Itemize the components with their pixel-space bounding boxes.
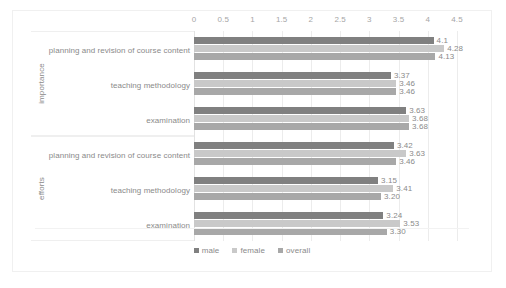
bar-row: 3.41 [194,185,457,192]
legend-item-female[interactable]: female [232,246,265,255]
bar-row: 3.37 [194,72,457,79]
category-section-efforts: effortsplanning and revision of course c… [31,136,194,241]
bar-value-label: 4.13 [435,52,454,61]
bar-group: 3.153.413.20 [194,177,457,201]
bar-row: 3.15 [194,177,457,184]
bar-male[interactable] [194,177,378,184]
bar-overall[interactable] [194,88,396,95]
bar-overall[interactable] [194,53,435,60]
axis-tick-label: 1.5 [276,15,287,24]
bar-group: 3.423.633.46 [194,142,457,166]
category-label: teaching methodology [111,80,190,89]
bar-overall[interactable] [194,193,381,200]
bars-layer: 4.14.284.133.373.463.463.633.683.683.423… [194,31,457,241]
bar-female[interactable] [194,150,406,157]
value-axis: 00.511.522.533.544.5 [194,15,490,29]
axis-tick-label: 1 [250,15,255,24]
bar-row: 3.68 [194,115,457,122]
section-title-label: importance [37,63,46,104]
section-title-efforts: efforts [33,137,49,240]
section-title-label: efforts [37,177,46,200]
gridline [457,31,458,241]
bar-row: 3.46 [194,158,457,165]
bar-overall[interactable] [194,123,409,130]
bar-row: 3.42 [194,142,457,149]
bar-row: 4.28 [194,45,457,52]
bar-row: 3.53 [194,220,457,227]
bar-female[interactable] [194,80,396,87]
bar-male[interactable] [194,72,391,79]
bar-value-label: 3.46 [396,157,415,166]
legend-swatch-icon [194,248,199,253]
bar-female[interactable] [194,45,444,52]
category-label: planning and revision of course content [49,150,190,159]
bar-male[interactable] [194,37,434,44]
chart-legend: malefemaleoverall [13,246,491,255]
bar-row: 3.20 [194,193,457,200]
bar-group: 4.14.284.13 [194,37,457,61]
bar-row: 3.63 [194,107,457,114]
bar-female[interactable] [194,115,409,122]
bar-group: 3.243.533.30 [194,212,457,236]
bar-row: 4.1 [194,37,457,44]
category-label: examination [146,115,190,124]
axis-tick-label: 0.5 [218,15,229,24]
legend-item-overall[interactable]: overall [278,246,310,255]
legend-label: overall [286,246,310,255]
section-title-importance: importance [33,32,49,135]
bar-female[interactable] [194,185,393,192]
category-label: planning and revision of course content [49,45,190,54]
bar-male[interactable] [194,142,394,149]
bar-value-label: 3.46 [396,87,415,96]
axis-tick-label: 2.5 [334,15,345,24]
legend-label: female [240,246,265,255]
axis-tick-label: 3 [367,15,372,24]
plot-area: 4.14.284.133.373.463.463.633.683.683.423… [194,31,457,241]
legend-swatch-icon [232,248,237,253]
axis-tick-label: 0 [192,15,197,24]
bar-male[interactable] [194,212,383,219]
bar-male[interactable] [194,107,406,114]
bar-group: 3.633.683.68 [194,107,457,131]
bar-row: 3.46 [194,80,457,87]
axis-tick-label: 4 [425,15,430,24]
legend-divider [35,228,469,229]
legend-label: male [202,246,220,255]
bar-row: 4.13 [194,53,457,60]
bar-group: 3.373.463.46 [194,72,457,96]
bar-row: 3.68 [194,123,457,130]
bar-value-label: 3.68 [409,122,428,131]
axis-tick-label: 4.5 [451,15,462,24]
axis-tick-label: 2 [309,15,314,24]
category-label: teaching methodology [111,185,190,194]
bar-row: 3.46 [194,88,457,95]
axis-tick-label: 3.5 [393,15,404,24]
bar-female[interactable] [194,220,400,227]
bar-row: 3.24 [194,212,457,219]
bar-row: 3.63 [194,150,457,157]
legend-swatch-icon [278,248,283,253]
category-section-importance: importanceplanning and revision of cours… [31,31,194,136]
bar-value-label: 3.20 [381,192,400,201]
chart-container: 00.511.522.533.544.5 importanceplanning … [12,10,492,272]
legend-item-male[interactable]: male [194,246,220,255]
bar-overall[interactable] [194,158,396,165]
category-axis: importanceplanning and revision of cours… [31,31,194,241]
